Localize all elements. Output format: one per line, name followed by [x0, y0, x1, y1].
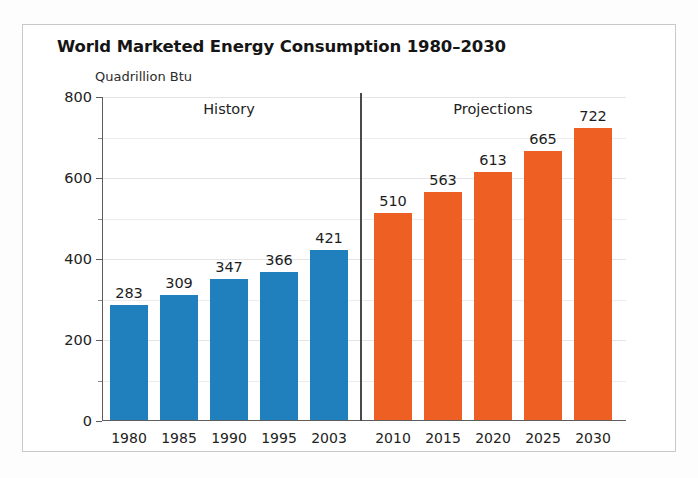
- bar-1980[interactable]: 283: [110, 305, 148, 420]
- bar-column[interactable]: 3471990: [210, 97, 248, 421]
- y-tick-mark: [96, 421, 102, 422]
- x-tick-label: 2003: [311, 430, 347, 446]
- bar-column[interactable]: 2831980: [110, 97, 148, 421]
- y-tick-label: 200: [64, 332, 92, 348]
- bar-2030[interactable]: 722: [574, 128, 612, 420]
- bar-2010[interactable]: 510: [374, 213, 412, 420]
- x-tick-label: 2030: [575, 430, 611, 446]
- bar-column[interactable]: 4212003: [310, 97, 348, 421]
- bar-2020[interactable]: 613: [474, 172, 512, 420]
- bar-value-label: 421: [315, 230, 343, 246]
- y-axis-line: [102, 97, 103, 421]
- bar-column[interactable]: 6132020: [474, 97, 512, 421]
- history-projection-divider: [360, 93, 362, 421]
- bar-value-label: 309: [165, 275, 193, 291]
- bar-2015[interactable]: 563: [424, 192, 462, 420]
- x-tick-label: 2025: [525, 430, 561, 446]
- x-tick-label: 2015: [425, 430, 461, 446]
- bar-value-label: 347: [215, 259, 243, 275]
- x-tick-label: 1995: [261, 430, 297, 446]
- bar-1985[interactable]: 309: [160, 295, 198, 420]
- bar-column[interactable]: 3661995: [260, 97, 298, 421]
- bar-1990[interactable]: 347: [210, 279, 248, 420]
- bar-value-label: 563: [429, 172, 457, 188]
- bar-column[interactable]: 5102010: [374, 97, 412, 421]
- y-tick-label: 800: [64, 89, 92, 105]
- chart-frame: World Marketed Energy Consumption 1980–2…: [22, 24, 676, 452]
- bar-2025[interactable]: 665: [524, 151, 562, 420]
- bar-column[interactable]: 6652025: [524, 97, 562, 421]
- x-tick-label: 2010: [375, 430, 411, 446]
- x-tick-label: 1985: [161, 430, 197, 446]
- y-tick-label: 400: [64, 251, 92, 267]
- bar-column[interactable]: 7222030: [574, 97, 612, 421]
- bar-1995[interactable]: 366: [260, 272, 298, 420]
- bar-value-label: 665: [529, 131, 557, 147]
- y-axis-unit-label: Quadrillion Btu: [95, 69, 192, 84]
- bar-value-label: 722: [579, 108, 607, 124]
- bar-2003[interactable]: 421: [310, 250, 348, 421]
- bar-column[interactable]: 5632015: [424, 97, 462, 421]
- x-tick-label: 1990: [211, 430, 247, 446]
- y-tick-label: 600: [64, 170, 92, 186]
- bar-value-label: 510: [379, 193, 407, 209]
- x-tick-label: 1980: [111, 430, 147, 446]
- x-tick-label: 2020: [475, 430, 511, 446]
- chart-page: World Marketed Energy Consumption 1980–2…: [0, 0, 698, 478]
- bar-value-label: 366: [265, 252, 293, 268]
- chart-title: World Marketed Energy Consumption 1980–2…: [57, 37, 506, 56]
- bar-value-label: 283: [115, 285, 143, 301]
- plot-area: 0200400600800 HistoryProjections 2831980…: [102, 97, 626, 421]
- bar-value-label: 613: [479, 152, 507, 168]
- y-tick-label: 0: [83, 413, 92, 429]
- bar-column[interactable]: 3091985: [160, 97, 198, 421]
